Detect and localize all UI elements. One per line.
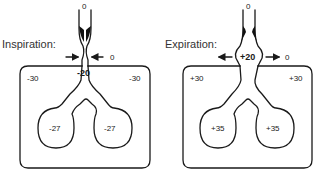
vocal-fold-right <box>252 26 257 42</box>
panel-title: Inspiration: <box>2 38 56 50</box>
alveolar-pressure-left: +35 <box>211 124 225 133</box>
inspiration-panel: Inspiration: 0 0 -20 -30 -30 -27 -27 <box>2 2 150 168</box>
bronchial-tree <box>38 66 132 148</box>
bronchial-tree <box>200 66 294 148</box>
alveolar-pressure-left: -27 <box>49 124 61 133</box>
alveolar-pressure-right: +35 <box>266 124 280 133</box>
panel-title: Expiration: <box>165 38 217 50</box>
respiration-pressure-diagram: Inspiration: 0 0 -20 -30 -30 -27 -27 Exp… <box>0 0 317 177</box>
airway-pressure: +20 <box>240 52 255 62</box>
airway-outside-pressure: 0 <box>285 53 290 62</box>
expiration-panel: Expiration: 0 0 +20 +30 +30 +35 +35 <box>165 2 312 168</box>
mouth-pressure: 0 <box>246 2 251 11</box>
pleural-pressure-right: -30 <box>129 74 141 83</box>
airway-pressure: -20 <box>77 68 90 78</box>
alveolar-pressure-right: -27 <box>104 124 116 133</box>
vocal-fold-left <box>241 26 246 42</box>
pleural-pressure-left: -30 <box>27 74 39 83</box>
mouth-pressure: 0 <box>82 2 87 11</box>
airway-outside-pressure: 0 <box>110 53 115 62</box>
pleural-pressure-left: +30 <box>190 74 204 83</box>
pleural-pressure-right: +30 <box>289 74 303 83</box>
trachea-right-wall <box>255 10 263 66</box>
